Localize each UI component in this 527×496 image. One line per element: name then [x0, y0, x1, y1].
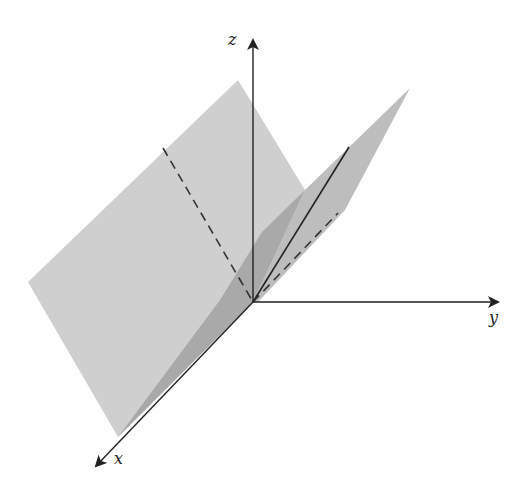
z-axis-label: z: [228, 32, 236, 48]
x-axis-label: x: [114, 451, 123, 467]
surface-diagram: [0, 0, 527, 496]
y-axis-label: y: [489, 310, 498, 326]
diagram-canvas: z y x: [0, 0, 527, 496]
